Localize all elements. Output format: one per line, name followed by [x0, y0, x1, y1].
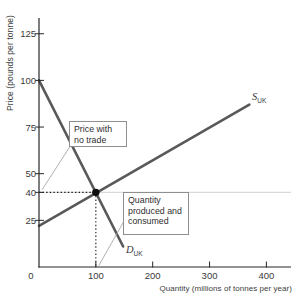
y-tick-label: 50: [0, 168, 36, 179]
y-tick-label: 125: [0, 28, 36, 39]
quantity-callout-line: [99, 222, 124, 266]
supply-curve-label: SUK: [252, 91, 266, 104]
x-tick-label: 100: [82, 270, 110, 281]
y-tick-label: 40: [0, 187, 36, 198]
equilibrium-point: [92, 189, 99, 196]
supply-demand-figure: Price (pounds per tonne) Quantity (milli…: [0, 0, 295, 299]
demand-curve: [39, 80, 123, 246]
x-tick-label: 300: [196, 270, 224, 281]
demand-subscript: UK: [134, 250, 143, 257]
y-tick-label: 100: [0, 75, 36, 86]
demand-symbol: D: [126, 244, 134, 255]
price-callout-line: [42, 147, 70, 190]
y-tick-label: 25: [0, 215, 36, 226]
price-no-trade-callout-box: Price with no trade: [69, 121, 127, 147]
x-tick-label: 400: [252, 270, 280, 281]
y-tick-label: 75: [0, 122, 36, 133]
x-tick-label: 200: [139, 270, 167, 281]
demand-curve-label: DUK: [126, 244, 143, 257]
chart-canvas: [0, 0, 295, 299]
supply-subscript: UK: [257, 97, 266, 104]
quantity-produced-callout-box: Quantity produced and consumed: [123, 192, 189, 235]
x-axis-title: Quantity (millions of tonnes per year): [159, 284, 292, 293]
origin-tick-label: 0: [23, 270, 39, 281]
